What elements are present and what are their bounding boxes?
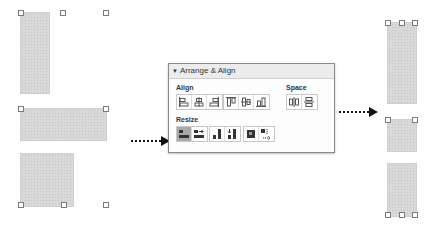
- align-section-label: Align: [176, 84, 194, 91]
- same-size-down-button[interactable]: [259, 127, 274, 141]
- align-top-icon: [225, 96, 237, 108]
- arrow-to-result-icon: [339, 107, 379, 117]
- resize-section-label: Resize: [176, 116, 198, 123]
- align-vertical-button-group: [223, 94, 270, 110]
- same-size-button[interactable]: [244, 127, 259, 141]
- align-left-icon: [178, 96, 190, 108]
- arrow-to-panel-icon: [131, 136, 171, 146]
- space-horizontal-icon: [288, 96, 300, 108]
- space-vertical-button[interactable]: [302, 95, 317, 109]
- same-width-button[interactable]: [177, 127, 192, 141]
- resize-width-button-group: [176, 126, 208, 142]
- align-right-icon: [208, 96, 220, 108]
- resize-height-button-group: [209, 126, 241, 142]
- arrange-align-panel: ▼Arrange & Align Align Space Resize: [168, 63, 335, 153]
- make-same-width-right-icon: [193, 128, 205, 140]
- same-height-button[interactable]: [210, 127, 225, 141]
- panel-title: Arrange & Align: [180, 66, 236, 75]
- selection-handle[interactable]: [399, 212, 405, 218]
- selection-handle[interactable]: [412, 20, 418, 26]
- selection-handle[interactable]: [412, 212, 418, 218]
- selection-handle[interactable]: [103, 10, 109, 16]
- align-bottom-button[interactable]: [254, 95, 269, 109]
- shape-square-before: [20, 153, 74, 207]
- disclosure-triangle-icon[interactable]: ▼: [172, 68, 178, 74]
- selection-handle[interactable]: [18, 202, 24, 208]
- resize-size-button-group: [243, 126, 275, 142]
- space-button-group: [286, 94, 318, 110]
- align-middle-vertical-icon: [240, 96, 252, 108]
- selection-handle[interactable]: [103, 202, 109, 208]
- shape-tall-after: [387, 22, 417, 104]
- selection-handle[interactable]: [385, 20, 391, 26]
- shape-tall-before: [20, 12, 50, 94]
- make-same-width-icon: [178, 128, 190, 140]
- align-bottom-icon: [255, 96, 267, 108]
- same-width-right-button[interactable]: [192, 127, 207, 141]
- shape-square-after: [387, 163, 417, 217]
- selection-handle[interactable]: [18, 10, 24, 16]
- space-vertical-icon: [303, 96, 315, 108]
- same-height-down-button[interactable]: [225, 127, 240, 141]
- make-same-size-down-icon: [260, 128, 272, 140]
- shape-wide-before: [20, 108, 107, 141]
- align-center-button[interactable]: [192, 95, 207, 109]
- space-horizontal-button[interactable]: [287, 95, 302, 109]
- make-same-size-icon: [245, 128, 257, 140]
- align-right-button[interactable]: [207, 95, 222, 109]
- align-center-horizontal-icon: [193, 96, 205, 108]
- selection-handle[interactable]: [61, 202, 67, 208]
- space-section-label: Space: [286, 84, 307, 91]
- panel-header[interactable]: ▼Arrange & Align: [169, 64, 334, 79]
- shape-wide-after: [387, 119, 417, 152]
- selection-handle[interactable]: [385, 117, 391, 123]
- align-button-group: [176, 94, 223, 110]
- selection-handle[interactable]: [60, 10, 66, 16]
- selection-handle[interactable]: [385, 212, 391, 218]
- make-same-height-down-icon: [226, 128, 238, 140]
- selection-handle[interactable]: [18, 106, 24, 112]
- selection-handle[interactable]: [412, 117, 418, 123]
- align-top-button[interactable]: [224, 95, 239, 109]
- make-same-height-icon: [211, 128, 223, 140]
- selection-handle[interactable]: [103, 106, 109, 112]
- align-middle-button[interactable]: [239, 95, 254, 109]
- align-left-button[interactable]: [177, 95, 192, 109]
- selection-handle[interactable]: [399, 20, 405, 26]
